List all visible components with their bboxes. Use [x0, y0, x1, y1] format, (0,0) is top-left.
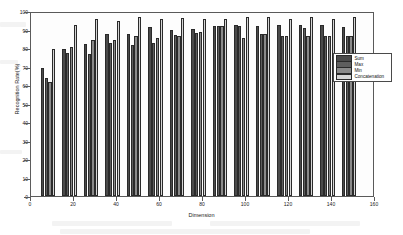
legend-item-concatenation: Concatenation — [336, 74, 389, 80]
x-tick-label: 120 — [278, 201, 298, 207]
chart-legend: Sum Max Min Concatenation — [333, 53, 392, 82]
legend-label-min: Min — [355, 68, 362, 73]
x-tick-label: 140 — [321, 201, 341, 207]
bar-concatenation — [52, 49, 55, 196]
y-tick-mark — [24, 160, 30, 161]
legend-swatch-concatenation — [336, 74, 352, 80]
bar-concatenation — [310, 17, 313, 196]
legend-label-concatenation: Concatenation — [355, 74, 385, 79]
bar-group — [234, 13, 249, 196]
bar-group — [256, 13, 271, 196]
bar-group — [277, 13, 292, 196]
y-tick-mark — [24, 105, 30, 106]
x-tick-label: 40 — [106, 201, 126, 207]
page-artifact — [60, 229, 310, 234]
bars-layer — [31, 13, 373, 196]
bar-concatenation — [224, 19, 227, 196]
bar-concatenation — [138, 17, 141, 196]
page-artifact — [210, 221, 360, 226]
bar-group — [299, 13, 314, 196]
bar-concatenation — [353, 17, 356, 196]
x-tick-label: 60 — [149, 201, 169, 207]
bar-group — [105, 13, 120, 196]
bar-group — [84, 13, 99, 196]
page-artifact — [52, 221, 172, 226]
bar-concatenation — [117, 21, 120, 196]
bar-concatenation — [267, 17, 270, 196]
legend-item-sum: Sum — [336, 56, 389, 62]
bar-concatenation — [289, 19, 292, 196]
x-axis-title: Dimension — [0, 212, 403, 218]
bar-group — [191, 13, 206, 196]
bar-concatenation — [74, 25, 77, 196]
figure-canvas: Recognition Rate(%) 01020304050607080901… — [0, 0, 403, 235]
y-tick-mark — [24, 12, 30, 13]
plot-area — [30, 12, 374, 197]
bar-concatenation — [203, 19, 206, 196]
y-tick-mark — [24, 123, 30, 124]
legend-label-max: Max — [355, 62, 364, 67]
bar-group — [170, 13, 185, 196]
y-tick-mark — [24, 31, 30, 32]
bar-concatenation — [332, 19, 335, 196]
bar-group — [213, 13, 228, 196]
x-tick-label: 80 — [192, 201, 212, 207]
bar-concatenation — [95, 19, 98, 196]
x-tick-label: 160 — [364, 201, 384, 207]
bar-group — [41, 13, 56, 196]
x-tick-label: 20 — [63, 201, 83, 207]
x-tick-label: 100 — [235, 201, 255, 207]
legend-item-max: Max — [336, 62, 389, 68]
y-tick-mark — [24, 49, 30, 50]
bar-group — [62, 13, 77, 196]
bar-group — [148, 13, 163, 196]
y-tick-mark — [24, 86, 30, 87]
bar-group — [127, 13, 142, 196]
x-tick-label: 0 — [20, 201, 40, 207]
bar-group — [320, 13, 335, 196]
bar-concatenation — [181, 18, 184, 196]
y-tick-mark — [24, 142, 30, 143]
y-tick-mark — [24, 179, 30, 180]
legend-item-min: Min — [336, 68, 389, 74]
bar-concatenation — [246, 17, 249, 196]
y-tick-mark — [24, 68, 30, 69]
legend-label-sum: Sum — [355, 56, 364, 61]
bar-concatenation — [160, 19, 163, 196]
bar-group — [342, 13, 357, 196]
